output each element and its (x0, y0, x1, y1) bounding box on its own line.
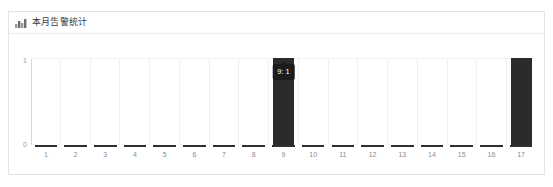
x-axis-tick-label: 14 (417, 150, 447, 162)
x-axis-segment (417, 145, 447, 147)
bar-column[interactable] (329, 58, 359, 146)
tooltip-text: 9: 1 (277, 67, 290, 76)
x-axis-tick-label: 2 (61, 150, 91, 162)
bar-column[interactable] (239, 58, 269, 146)
bar[interactable] (511, 58, 532, 146)
x-axis-segment-line (391, 145, 414, 147)
x-axis-tick-label: 1 (31, 150, 61, 162)
x-axis-tick-label: 12 (358, 150, 388, 162)
bar-column[interactable] (120, 58, 150, 146)
x-axis-segment-line (213, 145, 236, 147)
bar-column[interactable] (477, 58, 507, 146)
x-axis-labels: 1234567891011121314151617 (31, 150, 536, 162)
bar-column[interactable] (418, 58, 448, 146)
x-axis-segment (120, 145, 150, 147)
bar-column[interactable] (299, 58, 329, 146)
bar-column[interactable] (91, 58, 121, 146)
x-axis-segment-line (64, 145, 87, 147)
bar-column[interactable] (448, 58, 478, 146)
x-axis-segment (477, 145, 507, 147)
bar-column[interactable] (507, 58, 536, 146)
chart-plot-area: 1 0 9: 1 1234567891011121314151617 (9, 34, 544, 175)
x-axis-segment (387, 145, 417, 147)
x-axis-segment (209, 145, 239, 147)
x-axis-tick-label: 17 (506, 150, 536, 162)
x-axis-segment (506, 145, 536, 147)
bar-column[interactable] (61, 58, 91, 146)
x-axis-tick-label: 8 (239, 150, 269, 162)
bar-column[interactable] (210, 58, 240, 146)
bar-column[interactable]: 9: 1 (269, 58, 299, 146)
tooltip-notch-icon (280, 61, 286, 64)
x-axis-segment-line (35, 145, 58, 147)
x-axis-segment-line (242, 145, 265, 147)
bar-columns: 9: 1 (31, 58, 536, 146)
x-axis-segment-line (332, 145, 355, 147)
x-axis-tick-label: 11 (328, 150, 358, 162)
x-axis-segment-line (361, 145, 384, 147)
x-axis-tick-label: 16 (477, 150, 507, 162)
x-axis-tick-label: 9 (269, 150, 299, 162)
x-axis-segment (31, 145, 61, 147)
x-axis-tick-label: 13 (387, 150, 417, 162)
bar-chart-icon (15, 18, 27, 28)
x-axis-segment (239, 145, 269, 147)
x-axis-segment-line (183, 145, 206, 147)
screenshot-root: 本月告警统计 1 0 9: 1 123456789101112131415161… (0, 0, 553, 187)
x-axis-tick-label: 3 (90, 150, 120, 162)
x-axis-segment (447, 145, 477, 147)
x-axis-segment-line (510, 145, 533, 147)
x-axis-segment (180, 145, 210, 147)
x-axis-segment-line (272, 145, 295, 147)
x-axis-line (31, 145, 536, 147)
x-axis-segment (90, 145, 120, 147)
x-axis-segment (269, 145, 299, 147)
y-axis-tick-top: 1 (13, 57, 27, 64)
chart-tooltip: 9: 1 (272, 64, 295, 80)
x-axis-tick-label: 7 (209, 150, 239, 162)
x-axis-segment-line (450, 145, 473, 147)
bar-column[interactable] (180, 58, 210, 146)
x-axis-segment (298, 145, 328, 147)
x-axis-tick-label: 15 (447, 150, 477, 162)
bar-column[interactable] (358, 58, 388, 146)
x-axis-tick-label: 5 (150, 150, 180, 162)
x-axis-segment (150, 145, 180, 147)
bar-column[interactable] (150, 58, 180, 146)
x-axis-tick-label: 4 (120, 150, 150, 162)
x-axis-segment-line (480, 145, 503, 147)
x-axis-segment (61, 145, 91, 147)
page-title: 本月告警统计 (32, 17, 87, 28)
x-axis-tick-label: 6 (180, 150, 210, 162)
card-header: 本月告警统计 (9, 12, 544, 34)
x-axis-segment-line (124, 145, 147, 147)
x-axis-tick-label: 10 (298, 150, 328, 162)
x-axis-segment-line (302, 145, 325, 147)
x-axis-segment (328, 145, 358, 147)
x-axis-segment-line (94, 145, 117, 147)
y-axis-tick-bottom: 0 (13, 141, 27, 148)
x-axis-segment (358, 145, 388, 147)
x-axis-segment-line (421, 145, 444, 147)
bar-column[interactable] (31, 58, 61, 146)
bar-column[interactable] (388, 58, 418, 146)
x-axis-segment-line (153, 145, 176, 147)
alarm-statistics-card: 本月告警统计 1 0 9: 1 123456789101112131415161… (8, 11, 545, 175)
